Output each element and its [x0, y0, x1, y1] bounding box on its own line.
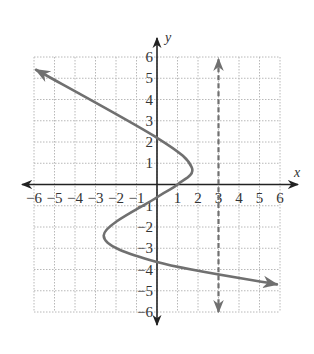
y-tick-label: −5	[137, 283, 153, 299]
x-tick-label: 2	[194, 190, 202, 206]
y-tick-label: 6	[146, 49, 154, 65]
y-tick-label: 3	[146, 113, 154, 129]
y-tick-label: −6	[137, 304, 153, 320]
x-axis-label: x	[293, 165, 301, 180]
x-tick-label: −4	[67, 190, 83, 206]
x-tick-label: −6	[26, 190, 42, 206]
y-tick-label: 1	[146, 155, 154, 171]
x-tick-label: 6	[276, 190, 284, 206]
y-tick-label: 5	[146, 70, 154, 86]
x-tick-label: 5	[256, 190, 264, 206]
x-tick-label: 4	[235, 190, 243, 206]
y-tick-label: 4	[146, 92, 154, 108]
x-tick-label: −2	[108, 190, 124, 206]
y-axis-label: y	[163, 30, 172, 45]
y-tick-label: −4	[137, 262, 153, 278]
graph: x y −6−5−4−3−2−1123456 654321−1−2−3−4−5−…	[0, 0, 314, 354]
y-tick-label: −2	[137, 219, 153, 235]
y-tick-label: −3	[137, 240, 153, 256]
y-tick-label: 2	[146, 134, 154, 150]
x-tick-label: 1	[174, 190, 182, 206]
x-tick-label: −5	[47, 190, 63, 206]
x-tick-label: −3	[88, 190, 104, 206]
